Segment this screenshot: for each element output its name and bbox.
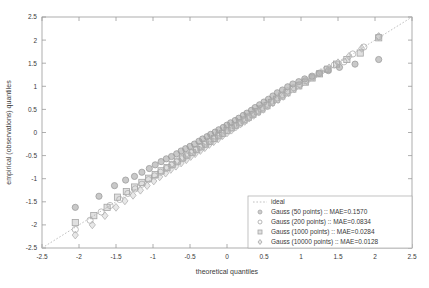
legend-label: ideal: [271, 198, 285, 205]
data-point: [152, 162, 158, 168]
data-point: [104, 204, 110, 210]
data-point: [96, 193, 102, 199]
legend-item[interactable]: Gauss (50 points) :: MAE=0.1570: [258, 208, 368, 216]
y-axis-title: empirical (observations) quantiles: [5, 80, 13, 185]
y-tick-label: 0: [33, 129, 37, 136]
legend-label: Gauss (50 points) :: MAE=0.1570: [271, 208, 368, 216]
y-tick-label: -1.5: [26, 198, 38, 205]
x-tick-label: 2.5: [407, 253, 416, 260]
y-tick-label: 2.5: [28, 13, 37, 20]
data-point: [131, 173, 137, 179]
y-tick-label: 1.5: [28, 60, 37, 67]
data-point: [72, 219, 78, 225]
legend-marker-circle: [258, 210, 262, 214]
data-point: [72, 204, 78, 210]
x-tick-label: -2: [76, 253, 82, 260]
data-point: [123, 189, 129, 195]
data-point: [139, 179, 145, 185]
legend-item[interactable]: Gauss (1000 points) :: MAE=0.0284: [258, 228, 375, 236]
data-point: [102, 212, 108, 220]
data-point: [139, 169, 145, 175]
y-tick-label: 1: [33, 83, 37, 90]
y-tick-label: 0.5: [28, 106, 37, 113]
plot-canvas: -2.5-2-1.5-1-0.500.511.522.5-2.5-2-1.5-1…: [0, 0, 429, 288]
qq-plot-figure: -2.5-2-1.5-1-0.500.511.522.5-2.5-2-1.5-1…: [0, 0, 429, 288]
x-axis-title: theoretical quantiles: [196, 268, 259, 276]
data-point: [376, 56, 382, 62]
data-point: [123, 177, 129, 183]
legend-item[interactable]: Gauss (10000 points) :: MAE=0.0128: [258, 238, 379, 246]
y-tick-label: -0.5: [26, 152, 38, 159]
x-tick-label: 2: [373, 253, 377, 260]
legend[interactable]: idealGauss (50 points) :: MAE=0.1570Gaus…: [248, 196, 412, 248]
data-point: [352, 61, 358, 67]
y-tick-label: 2: [33, 37, 37, 44]
legend-label: Gauss (1000 points) :: MAE=0.0284: [271, 228, 375, 236]
x-tick-label: 0.5: [259, 253, 268, 260]
x-tick-label: -1: [150, 253, 156, 260]
x-tick-label: -1.5: [110, 253, 122, 260]
x-tick-label: -0.5: [184, 253, 196, 260]
data-point: [89, 221, 95, 229]
legend-marker-square: [258, 230, 262, 234]
data-point: [91, 213, 97, 219]
x-tick-label: 1: [299, 253, 303, 260]
x-tick-label: 1.5: [333, 253, 342, 260]
data-point: [111, 183, 117, 189]
legend-label: Gauss (200 points) :: MAE=0.0834: [271, 218, 371, 226]
y-tick-label: -2.5: [26, 244, 38, 251]
y-tick-label: -2: [31, 221, 37, 228]
legend-label: Gauss (10000 points) :: MAE=0.0128: [271, 238, 379, 246]
data-point: [113, 203, 119, 211]
legend-item[interactable]: Gauss (200 points) :: MAE=0.0834: [258, 218, 371, 226]
y-tick-label: -1: [31, 175, 37, 182]
x-tick-label: -2.5: [36, 253, 48, 260]
data-point: [131, 184, 137, 190]
x-tick-label: 0: [225, 253, 229, 260]
data-point: [72, 231, 78, 239]
data-point: [146, 165, 152, 171]
data-point: [114, 194, 120, 200]
